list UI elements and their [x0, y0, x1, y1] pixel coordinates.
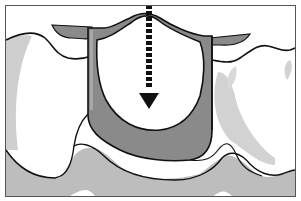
dental-diagram: [0, 0, 301, 201]
diagram-canvas: [0, 0, 301, 201]
